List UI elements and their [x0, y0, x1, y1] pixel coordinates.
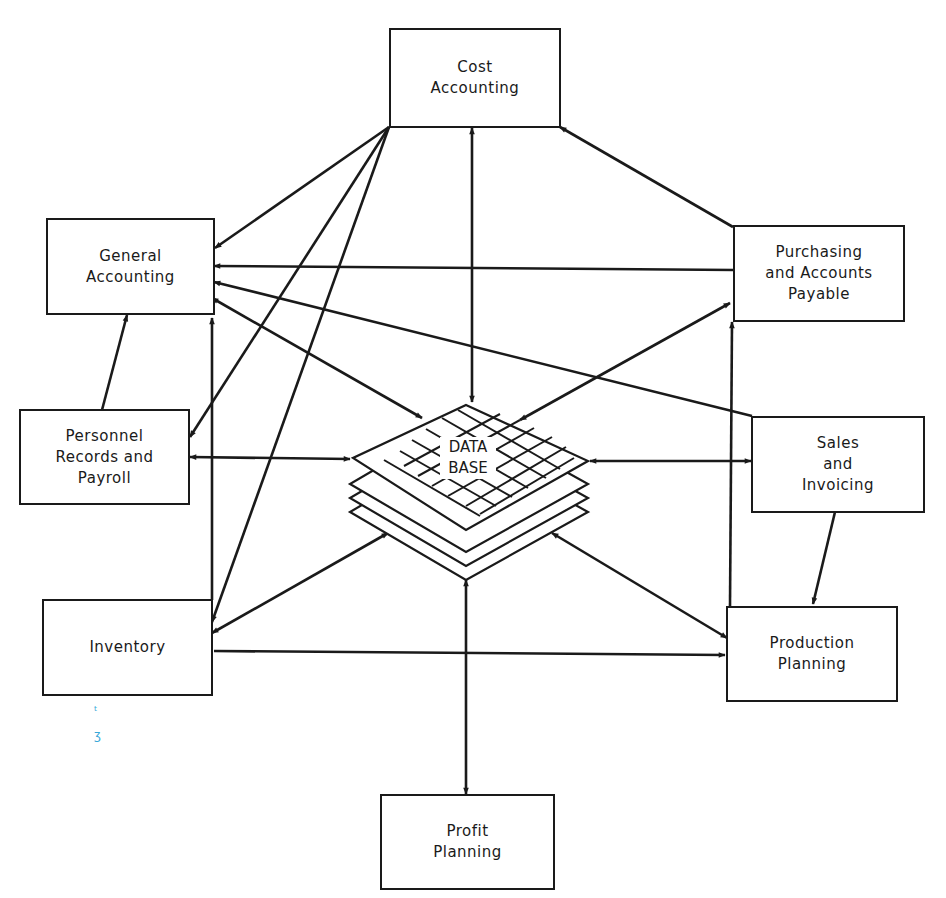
node-profit-planning: Profit Planning: [380, 794, 555, 890]
edge-personnel-general: [102, 315, 127, 410]
edge-inventory-production: [214, 651, 725, 655]
edge-production-db: [552, 533, 727, 638]
edge-production-purchasing: [730, 322, 732, 606]
pen-mark: ᵗ: [94, 704, 98, 718]
node-sales-invoicing: Sales and Invoicing: [751, 416, 925, 513]
node-production-planning: Production Planning: [726, 606, 898, 702]
node-label: Cost Accounting: [431, 57, 520, 99]
node-general-accounting: General Accounting: [46, 218, 215, 315]
database-label: DATA BASE: [440, 437, 496, 479]
node-label: Purchasing and Accounts Payable: [765, 242, 872, 305]
node-label: General Accounting: [86, 246, 175, 288]
node-personnel-records-payroll: Personnel Records and Payroll: [19, 409, 190, 505]
node-label: Personnel Records and Payroll: [55, 426, 153, 489]
edge-sales-general: [214, 282, 752, 416]
data-base-diagram: DATA BASE Cost Accounting General Accoun…: [0, 0, 946, 898]
node-label: Inventory: [89, 637, 165, 658]
edge-cost-personnel: [190, 127, 389, 437]
edge-purchasing-cost: [560, 127, 733, 227]
node-label: Profit Planning: [433, 821, 502, 863]
edge-general-db: [212, 298, 422, 418]
pen-mark: ʒ: [94, 728, 101, 742]
edge-cost-general: [215, 127, 389, 248]
node-inventory: Inventory: [42, 599, 213, 696]
node-label: Sales and Invoicing: [802, 433, 874, 496]
node-label: Production Planning: [770, 633, 855, 675]
node-purchasing-accounts-payable: Purchasing and Accounts Payable: [733, 225, 905, 322]
edge-purchasing-general: [214, 266, 735, 270]
edge-sales-production: [813, 512, 835, 604]
node-cost-accounting: Cost Accounting: [389, 28, 561, 128]
